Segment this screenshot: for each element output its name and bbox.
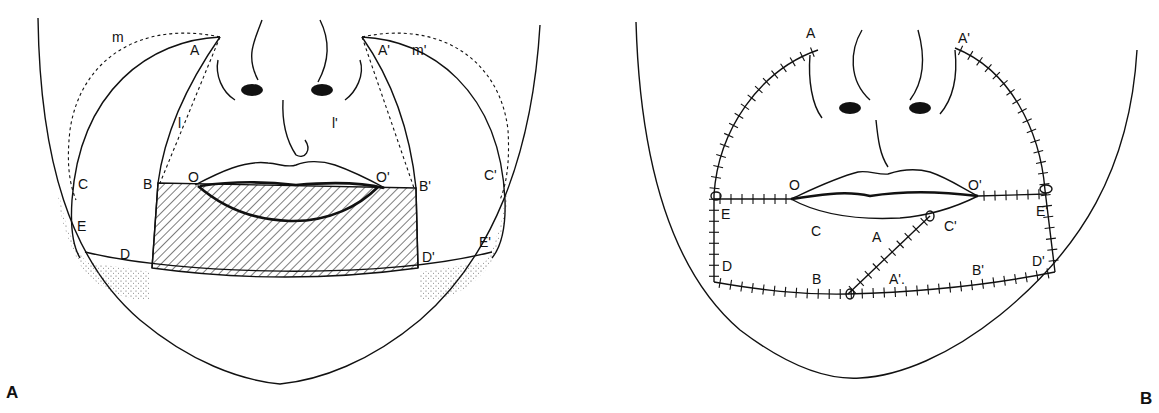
- label-A-prime-low-b: A'.: [889, 271, 905, 287]
- panel-label-a: A: [6, 383, 18, 402]
- suture-stitches: [709, 46, 1059, 299]
- label-E: E: [77, 218, 86, 234]
- label-A-prime-b: A': [958, 30, 970, 46]
- label-O-b: O: [789, 177, 800, 193]
- label-C: C: [78, 176, 88, 192]
- label-E-prime: E': [479, 234, 491, 250]
- suture-line-right-horizontal: [978, 194, 1047, 196]
- nose: [217, 20, 361, 156]
- stipple-right: [420, 195, 508, 300]
- panel-label-b: B: [1140, 389, 1152, 408]
- label-C-prime-b: C': [944, 218, 957, 234]
- label-O-prime-b: O': [968, 177, 982, 193]
- dashed-line-l-prime: [362, 37, 414, 188]
- label-B-b: B: [812, 271, 821, 287]
- label-B: B: [143, 176, 152, 192]
- label-l-prime: l': [332, 115, 338, 131]
- panel-b: A A' O O' E E' C A C' D D' B A'. B' B: [636, 22, 1152, 408]
- label-D-prime: D': [422, 249, 435, 265]
- label-C-b: C: [811, 223, 821, 239]
- face-outline-b: [636, 22, 1137, 378]
- label-l: l: [178, 115, 181, 131]
- label-C-prime: C': [484, 167, 497, 183]
- knot-E-prime: [1040, 185, 1052, 193]
- label-E-prime-b: E': [1036, 203, 1048, 219]
- nose-b: [810, 30, 956, 167]
- hatched-defect: [152, 183, 418, 277]
- lower-lip-b: [791, 196, 978, 218]
- label-E-b: E: [721, 206, 730, 222]
- label-A: A: [190, 42, 200, 58]
- label-D: D: [120, 246, 130, 262]
- label-m-prime: m': [412, 42, 426, 58]
- label-O: O: [188, 169, 199, 185]
- label-B-prime: B': [419, 178, 431, 194]
- lip-line-b: [791, 192, 978, 199]
- label-D-b: D: [722, 258, 732, 274]
- dashed-line-l: [160, 37, 220, 183]
- label-A-mid-b: A: [872, 229, 882, 245]
- label-A-prime: A': [378, 42, 390, 58]
- label-A-b: A: [806, 25, 816, 41]
- label-B-prime-b: B': [972, 262, 984, 278]
- label-O-prime: O': [376, 169, 390, 185]
- label-m: m: [112, 29, 124, 45]
- suture-arc-left: [714, 50, 818, 282]
- panel-a: m A l A' m' l' B O O' B' C C' E E' D D' …: [6, 18, 540, 402]
- suture-arc-right: [955, 48, 1055, 272]
- label-D-prime-b: D': [1032, 253, 1045, 269]
- diagram-canvas: m A l A' m' l' B O O' B' C C' E E' D D' …: [0, 0, 1159, 413]
